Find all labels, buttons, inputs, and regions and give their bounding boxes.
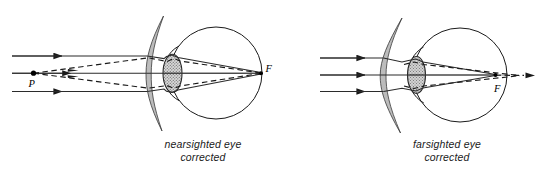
refracted-ray-bottom [384,76,496,92]
focal-point-label: F [493,83,501,94]
panel-farsighted: F farsighted eye corrected [320,18,535,163]
caption-line2-farsighted: corrected [424,151,470,163]
figure-root: P F nearsighted eye corrected [0,0,546,170]
caption-line1-farsighted: farsighted eye [413,138,481,150]
caption-line1-nearsighted: nearsighted eye [165,138,242,150]
focal-point-label: F [265,63,273,74]
focal-point-marker [494,73,498,77]
virtual-ray-extension-arrowhead [526,73,536,79]
incoming-rays-group [320,58,384,92]
refracted-rays-group [381,58,496,92]
panel-nearsighted: P F nearsighted eye corrected [12,16,273,163]
focal-point-marker [259,71,263,75]
virtual-ray-lower-arrowhead [68,75,79,78]
caption-line2-nearsighted: corrected [180,151,226,163]
ray-diagram-svg: P F nearsighted eye corrected [0,0,546,170]
object-point-marker [31,71,36,76]
virtual-ray-upper-arrowhead [68,69,79,72]
object-point-label: P [28,78,36,89]
